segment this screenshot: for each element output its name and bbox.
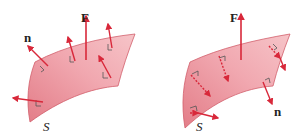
label-f-left: F	[81, 10, 89, 25]
label-s-right: S	[196, 119, 203, 134]
surface-s-left	[28, 34, 135, 122]
label-s-left: S	[43, 119, 50, 134]
label-n-right: n	[274, 104, 282, 119]
flux-surface-diagram: F n S F n S	[0, 0, 300, 140]
right-panel: F n S	[183, 10, 290, 134]
left-panel: F n S	[13, 10, 135, 134]
label-n-left: n	[24, 30, 32, 45]
label-f-right: F	[230, 10, 238, 25]
